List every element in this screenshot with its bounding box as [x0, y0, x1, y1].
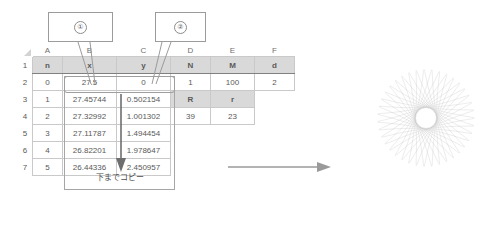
spreadsheet: A B C D E F 1 n x y N M d 2 0 27.5	[18, 44, 295, 176]
row-header-7[interactable]: 7	[18, 159, 33, 176]
cell-f4[interactable]	[255, 108, 295, 125]
cell-a4[interactable]: 2	[33, 108, 63, 125]
cell-b5[interactable]: 27.11787	[63, 125, 117, 142]
column-header-d[interactable]: D	[171, 44, 211, 57]
cell-d5[interactable]	[171, 125, 211, 142]
cell-f5[interactable]	[255, 125, 295, 142]
cell-e4[interactable]: 23	[211, 108, 255, 125]
cell-b3[interactable]: 27.45744	[63, 91, 117, 108]
callout-2: ②	[155, 12, 206, 42]
cell-e6[interactable]	[211, 142, 255, 159]
copy-down-caption: 下までコピー	[64, 171, 175, 182]
cell-e3[interactable]: r	[211, 91, 255, 108]
cell-a5[interactable]: 3	[33, 125, 63, 142]
cell-e2[interactable]: 100	[211, 74, 255, 91]
row-header-2[interactable]: 2	[18, 74, 33, 91]
cell-a6[interactable]: 4	[33, 142, 63, 159]
column-header-b[interactable]: B	[63, 44, 117, 57]
cell-a3[interactable]: 1	[33, 91, 63, 108]
cell-e1[interactable]: M	[211, 57, 255, 74]
table-row: 6 4 26.82201 1.978647	[18, 142, 295, 159]
cell-e5[interactable]	[211, 125, 255, 142]
cell-f1[interactable]: d	[255, 57, 295, 74]
cell-a1[interactable]: n	[33, 57, 63, 74]
callout-1-number: ①	[74, 21, 87, 34]
cell-b2[interactable]: 27.5	[63, 74, 117, 91]
spreadsheet-table: A B C D E F 1 n x y N M d 2 0 27.5	[18, 44, 295, 176]
cell-d2[interactable]: 1	[171, 74, 211, 91]
cell-d6[interactable]	[171, 142, 211, 159]
row-header-1[interactable]: 1	[18, 57, 33, 74]
cell-b4[interactable]: 27.32992	[63, 108, 117, 125]
select-all-triangle-icon	[24, 49, 31, 56]
table-row: 3 1 27.45744 0.502154 R r	[18, 91, 295, 108]
cell-d3[interactable]: R	[171, 91, 211, 108]
select-all-corner[interactable]	[18, 44, 33, 57]
table-row: 5 3 27.11787 1.494454	[18, 125, 295, 142]
column-header-row: A B C D E F	[18, 44, 295, 57]
cell-a7[interactable]: 5	[33, 159, 63, 176]
cell-f2[interactable]: 2	[255, 74, 295, 91]
column-header-e[interactable]: E	[211, 44, 255, 57]
table-row: 2 0 27.5 0 1 100 2	[18, 74, 295, 91]
column-header-a[interactable]: A	[33, 44, 63, 57]
cell-c1[interactable]: y	[117, 57, 171, 74]
row-header-5[interactable]: 5	[18, 125, 33, 142]
page-root: A B C D E F 1 n x y N M d 2 0 27.5	[0, 0, 486, 225]
copy-down-arrow-icon	[115, 94, 127, 174]
cell-d7[interactable]	[171, 159, 211, 176]
callout-2-number: ②	[174, 21, 187, 34]
process-right-arrow-icon	[228, 160, 332, 174]
cell-c2[interactable]: 0	[117, 74, 171, 91]
cell-b6[interactable]: 26.82201	[63, 142, 117, 159]
cell-d4[interactable]: 39	[171, 108, 211, 125]
cell-f6[interactable]	[255, 142, 295, 159]
row-header-3[interactable]: 3	[18, 91, 33, 108]
spirograph-center-hole	[416, 108, 437, 129]
column-header-f[interactable]: F	[255, 44, 295, 57]
column-header-c[interactable]: C	[117, 44, 171, 57]
callout-1: ①	[48, 12, 113, 42]
cell-d1[interactable]: N	[171, 57, 211, 74]
cell-f3[interactable]	[255, 91, 295, 108]
row-header-4[interactable]: 4	[18, 108, 33, 125]
spirograph-rosette-figure	[366, 58, 486, 178]
cell-a2[interactable]: 0	[33, 74, 63, 91]
table-row: 1 n x y N M d	[18, 57, 295, 74]
table-row: 4 2 27.32992 1.001302 39 23	[18, 108, 295, 125]
row-header-6[interactable]: 6	[18, 142, 33, 159]
cell-b1[interactable]: x	[63, 57, 117, 74]
